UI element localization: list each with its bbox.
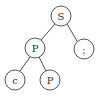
tree-node-c: c [5,70,25,90]
node-label: c [12,75,18,86]
node-label: P [32,43,39,54]
parse-tree-diagram: S P ; c P [0,0,99,98]
node-label: P [47,75,54,86]
node-label: ; [82,44,85,55]
edge-p-to-p [39,57,46,71]
tree-node-p: P [25,38,45,58]
tree-node-semicolon: ; [74,39,94,59]
edge-s-to-p [41,24,55,40]
edge-s-to-semicolon [67,24,77,41]
edge-p-to-c [20,57,30,71]
node-label: S [58,11,65,22]
tree-node-s: S [51,6,71,26]
tree-node-p-child: P [40,70,60,90]
